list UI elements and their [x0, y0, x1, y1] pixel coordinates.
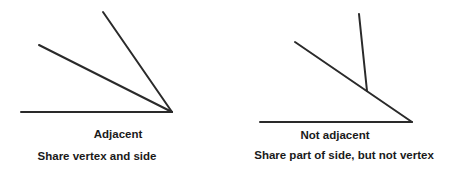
ray-line — [359, 14, 367, 91]
not-adjacent-title: Not adjacent — [300, 129, 369, 141]
not-adjacent-caption: Share part of side, but not vertex — [254, 149, 434, 161]
adjacent-title: Adjacent — [94, 128, 143, 140]
ray-line — [295, 42, 412, 122]
ray-line — [103, 12, 172, 112]
not-adjacent-angles-figure — [260, 14, 412, 122]
ray-line — [39, 45, 172, 112]
adjacent-caption: Share vertex and side — [38, 150, 157, 162]
adjacent-angles-figure — [21, 12, 172, 112]
angle-diagrams — [0, 0, 460, 174]
